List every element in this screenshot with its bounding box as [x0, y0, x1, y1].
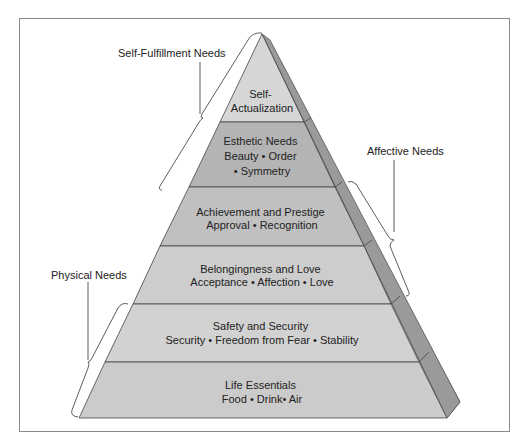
- group-label-self-fulfillment: Self-Fulfillment Needs: [118, 47, 226, 59]
- tier-label: Esthetic Needs Beauty • Order • Symmetry: [223, 135, 300, 177]
- tier-belongingness-love: [133, 246, 391, 304]
- tier-label: Achievement and Prestige Approval • Reco…: [196, 206, 327, 231]
- tier-safety-security: [105, 304, 419, 362]
- tier-label: Belongingness and Love Acceptance • Affe…: [190, 263, 333, 288]
- pyramid-diagram: Self- Actualization Esthetic Needs Beaut…: [0, 0, 523, 448]
- group-label-affective: Affective Needs: [367, 145, 444, 157]
- group-label-physical: Physical Needs: [51, 269, 127, 281]
